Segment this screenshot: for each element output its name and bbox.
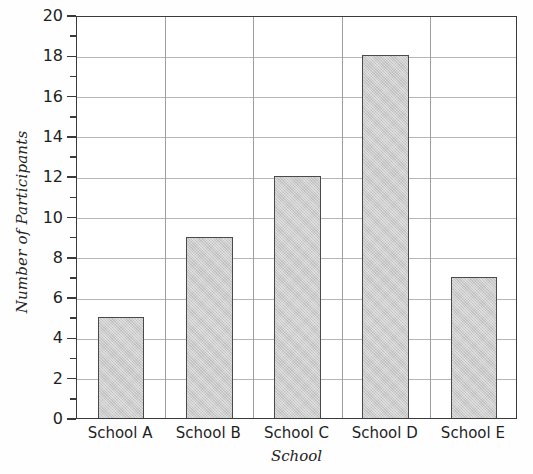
y-tick-label: 10: [43, 210, 63, 226]
x-tick-label-school-e: School E: [429, 424, 517, 442]
bar-school-c: [274, 176, 321, 418]
y-gridline: [77, 97, 516, 98]
plot-area: [76, 16, 517, 419]
y-tick-major: [67, 96, 76, 98]
y-axis: 02468101214161820: [0, 16, 76, 419]
y-tick-label: 14: [43, 129, 63, 145]
bar-school-a: [98, 317, 145, 418]
x-gridline: [430, 17, 431, 418]
y-tick-label: 4: [53, 330, 63, 346]
y-tick-major: [67, 176, 76, 178]
x-axis-title: School: [76, 447, 517, 465]
x-gridline: [342, 17, 343, 418]
y-tick-label: 16: [43, 89, 63, 105]
y-tick-major: [67, 15, 76, 17]
x-axis-tick-labels: School ASchool BSchool CSchool DSchool E: [76, 424, 517, 446]
bar-school-e: [451, 277, 498, 418]
y-tick-label: 8: [53, 250, 63, 266]
y-tick-major: [67, 297, 76, 299]
bar-school-d: [362, 55, 409, 418]
x-gridline: [165, 17, 166, 418]
bar-school-b: [186, 237, 233, 418]
y-tick-label: 12: [43, 169, 63, 185]
x-tick-label-school-c: School C: [252, 424, 340, 442]
y-tick-major: [67, 136, 76, 138]
y-tick-major: [67, 56, 76, 58]
x-gridline: [253, 17, 254, 418]
x-tick-label-school-a: School A: [76, 424, 164, 442]
y-tick-label: 18: [43, 48, 63, 64]
y-tick-major: [67, 378, 76, 380]
y-gridline: [77, 137, 516, 138]
y-tick-label: 20: [43, 8, 63, 24]
y-tick-major: [67, 257, 76, 259]
y-tick-label: 6: [53, 290, 63, 306]
y-tick-major: [67, 418, 76, 420]
x-tick-label-school-b: School B: [164, 424, 252, 442]
y-tick-label: 2: [53, 371, 63, 387]
bar-chart-figure: Number of Participants 02468101214161820…: [0, 0, 533, 474]
y-gridline: [77, 57, 516, 58]
x-tick-label-school-d: School D: [341, 424, 429, 442]
y-tick-major: [67, 217, 76, 219]
y-tick-major: [67, 338, 76, 340]
y-tick-label: 0: [53, 411, 63, 427]
